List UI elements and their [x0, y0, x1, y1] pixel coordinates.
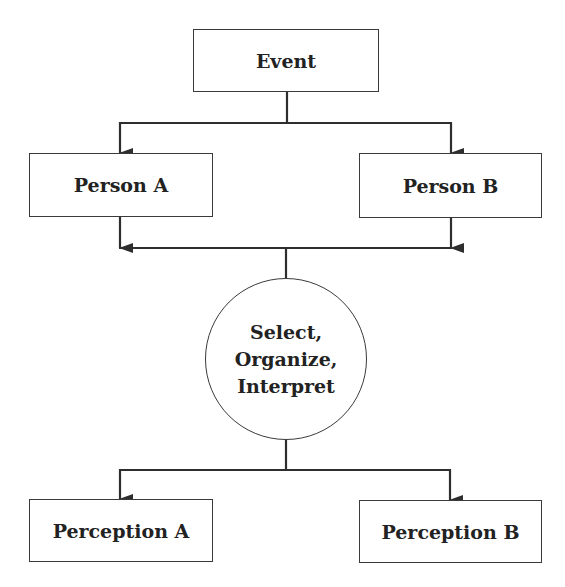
person-a-label: Person A	[74, 174, 168, 196]
event-label: Event	[256, 50, 316, 72]
process-label-line-3: Interpret	[237, 373, 335, 400]
perception-a-node: Perception A	[29, 499, 213, 562]
perception-b-node: Perception B	[359, 500, 542, 563]
process-label-line-1: Select,	[250, 319, 322, 346]
person-b-node: Person B	[359, 153, 542, 218]
process-label-line-2: Organize,	[235, 346, 338, 373]
select-organize-interpret-node: Select, Organize, Interpret	[205, 278, 367, 440]
perception-split-connector	[120, 440, 450, 500]
person-b-label: Person B	[403, 175, 499, 197]
event-node: Event	[193, 29, 379, 92]
perception-a-label: Perception A	[53, 520, 190, 542]
event-split-connector	[120, 92, 451, 153]
perception-b-label: Perception B	[382, 521, 520, 543]
person-merge-connector	[119, 217, 452, 278]
perception-flowchart: Event Person A Person B Select, Organize…	[0, 0, 565, 587]
person-a-node: Person A	[29, 153, 213, 217]
